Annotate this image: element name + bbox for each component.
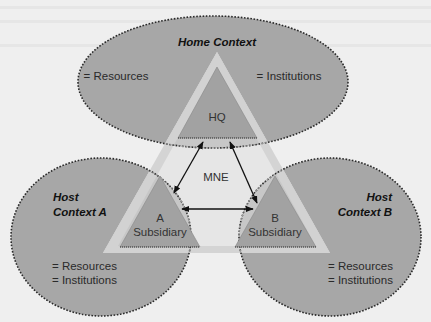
subsidiary-b-letter: B: [271, 212, 279, 224]
mne-label: MNE: [203, 171, 229, 183]
host-context-b-title-line1: Host: [366, 191, 393, 203]
host-context-a-resources: = Resources: [52, 260, 117, 272]
hq-label: HQ: [208, 111, 225, 123]
home-resources-label: = Resources: [84, 70, 149, 82]
host-context-a-institutions: = Institutions: [52, 274, 117, 286]
host-context-b-institutions: = Institutions: [328, 274, 393, 286]
host-context-b-title-line2: Context B: [338, 206, 392, 218]
host-context-a-title-line1: Host: [53, 191, 80, 203]
subsidiary-b-label: Subsidiary: [248, 226, 302, 238]
home-institutions-label: = Institutions: [257, 70, 322, 82]
host-context-b-resources: = Resources: [328, 260, 393, 272]
subsidiary-a-label: Subsidiary: [133, 226, 187, 238]
home-context-title: Home Context: [178, 36, 257, 48]
subsidiary-a-letter: A: [156, 212, 164, 224]
host-context-a-title-line2: Context A: [53, 206, 107, 218]
mne-context-diagram: Home Context = Resources = Institutions …: [0, 0, 431, 322]
